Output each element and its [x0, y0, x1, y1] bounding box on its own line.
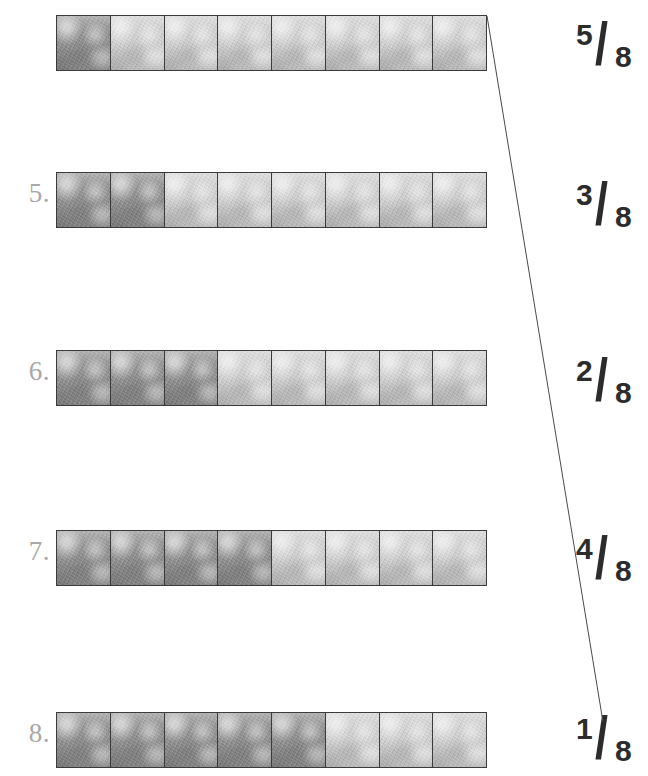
fraction-bar[interactable]	[56, 712, 487, 768]
unshaded-cell[interactable]	[218, 16, 272, 70]
unshaded-cell[interactable]	[380, 531, 434, 585]
unshaded-cell[interactable]	[272, 16, 326, 70]
fraction-inner: 1/8	[568, 710, 642, 776]
fraction-slash-icon: /	[595, 14, 608, 74]
fraction-label[interactable]: 5/8	[568, 16, 642, 82]
unshaded-cell[interactable]	[326, 351, 380, 405]
fraction-inner: 3/8	[568, 176, 642, 242]
unshaded-cell[interactable]	[380, 713, 434, 767]
row-number-label: 8.	[8, 720, 50, 747]
worksheet-row: 8.	[0, 712, 648, 776]
unshaded-cell[interactable]	[433, 173, 486, 227]
worksheet-row: 7.	[0, 530, 648, 596]
shaded-cell[interactable]	[272, 713, 326, 767]
fraction-numerator: 3	[576, 180, 593, 210]
unshaded-cell[interactable]	[380, 351, 434, 405]
fraction-denominator: 8	[615, 556, 632, 586]
fraction-denominator: 8	[615, 736, 632, 766]
unshaded-cell[interactable]	[218, 351, 272, 405]
shaded-cell[interactable]	[111, 173, 165, 227]
shaded-cell[interactable]	[111, 531, 165, 585]
fraction-slash-icon: /	[595, 174, 608, 234]
shaded-cell[interactable]	[57, 531, 111, 585]
fraction-bar[interactable]	[56, 172, 487, 228]
fraction-label[interactable]: 3/8	[568, 176, 642, 242]
shaded-cell[interactable]	[218, 713, 272, 767]
shaded-cell[interactable]	[165, 713, 219, 767]
row-number-label: 7.	[8, 538, 50, 565]
worksheet-row	[0, 15, 648, 81]
fraction-slash-icon: /	[595, 708, 608, 768]
unshaded-cell[interactable]	[433, 713, 486, 767]
fraction-inner: 2/8	[568, 352, 642, 418]
row-number-label: 5.	[8, 180, 50, 207]
shaded-cell[interactable]	[57, 713, 111, 767]
fraction-bar[interactable]	[56, 350, 487, 406]
fraction-numerator: 1	[576, 714, 593, 744]
unshaded-cell[interactable]	[433, 351, 486, 405]
unshaded-cell[interactable]	[326, 713, 380, 767]
worksheet-row: 5.	[0, 172, 648, 238]
shaded-cell[interactable]	[111, 351, 165, 405]
fraction-label[interactable]: 1/8	[568, 710, 642, 776]
fraction-inner: 4/8	[568, 530, 642, 596]
fraction-slash-icon: /	[595, 350, 608, 410]
unshaded-cell[interactable]	[326, 173, 380, 227]
shaded-cell[interactable]	[165, 531, 219, 585]
unshaded-cell[interactable]	[111, 16, 165, 70]
unshaded-cell[interactable]	[380, 173, 434, 227]
fraction-label[interactable]: 2/8	[568, 352, 642, 418]
shaded-cell[interactable]	[111, 713, 165, 767]
fraction-slash-icon: /	[595, 528, 608, 588]
unshaded-cell[interactable]	[326, 16, 380, 70]
fraction-bar[interactable]	[56, 15, 487, 71]
fraction-label[interactable]: 4/8	[568, 530, 642, 596]
fraction-denominator: 8	[615, 42, 632, 72]
fraction-inner: 5/8	[568, 16, 642, 82]
shaded-cell[interactable]	[57, 16, 111, 70]
unshaded-cell[interactable]	[326, 531, 380, 585]
fraction-numerator: 2	[576, 356, 593, 386]
unshaded-cell[interactable]	[433, 16, 486, 70]
worksheet-page: 5.6.7.8. 5/83/82/84/81/8	[0, 0, 648, 776]
unshaded-cell[interactable]	[272, 173, 326, 227]
fraction-bar[interactable]	[56, 530, 487, 586]
unshaded-cell[interactable]	[165, 16, 219, 70]
shaded-cell[interactable]	[57, 173, 111, 227]
fraction-denominator: 8	[615, 202, 632, 232]
unshaded-cell[interactable]	[272, 531, 326, 585]
shaded-cell[interactable]	[165, 351, 219, 405]
fraction-denominator: 8	[615, 378, 632, 408]
fraction-numerator: 4	[576, 534, 593, 564]
unshaded-cell[interactable]	[433, 531, 486, 585]
unshaded-cell[interactable]	[165, 173, 219, 227]
shaded-cell[interactable]	[57, 351, 111, 405]
unshaded-cell[interactable]	[218, 173, 272, 227]
unshaded-cell[interactable]	[272, 351, 326, 405]
fraction-numerator: 5	[576, 20, 593, 50]
row-number-label: 6.	[8, 358, 50, 385]
shaded-cell[interactable]	[218, 531, 272, 585]
worksheet-row: 6.	[0, 350, 648, 416]
unshaded-cell[interactable]	[380, 16, 434, 70]
